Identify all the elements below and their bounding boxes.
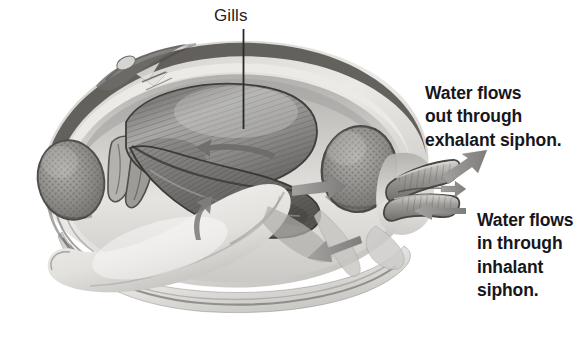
figure-container: Gills Water flows out through exhalant s… bbox=[0, 0, 582, 339]
callout-exhalant-siphon: Water flows out through exhalant siphon. bbox=[425, 82, 561, 152]
callout-inhalant-siphon: Water flows in through inhalant siphon. bbox=[477, 209, 573, 303]
gills-label: Gills bbox=[214, 6, 248, 26]
